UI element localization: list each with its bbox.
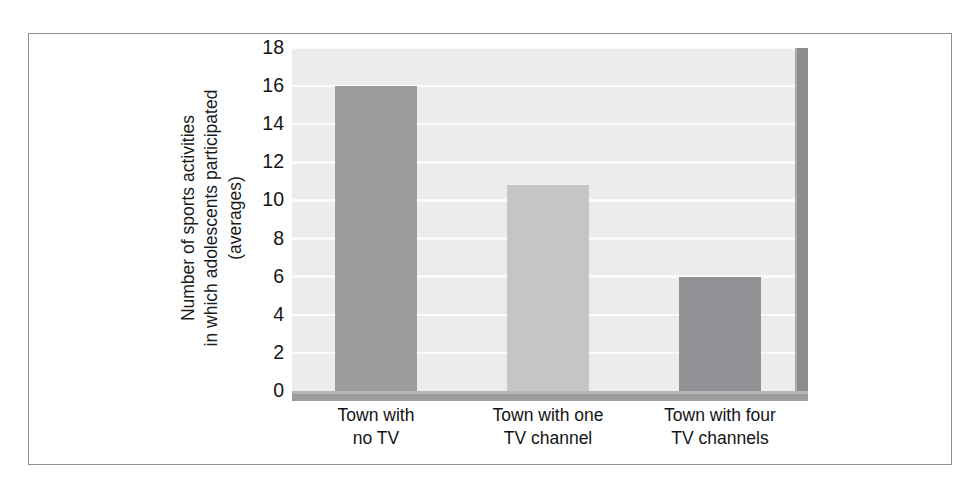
y-axis-tick-label: 2	[238, 343, 284, 363]
bar	[507, 185, 589, 391]
x-axis-category-label-line: TV channels	[634, 427, 806, 450]
y-axis-tick-label: 12	[238, 153, 284, 173]
plot-right-wall	[797, 48, 808, 391]
x-axis-category-label-line: Town with four	[634, 404, 806, 427]
x-axis-category-label-line: TV channel	[462, 427, 634, 450]
y-axis-tick-labels: 024681012141618	[238, 48, 284, 391]
plot-area	[292, 48, 808, 391]
x-axis-category-label: Town with oneTV channel	[462, 404, 634, 450]
y-axis-tick-label: 8	[238, 229, 284, 249]
x-axis-category-labels: Town withno TVTown with oneTV channelTow…	[292, 404, 808, 462]
gridline	[292, 48, 808, 49]
y-axis-tick-label: 14	[238, 114, 284, 134]
x-axis-category-label-line: Town with	[290, 404, 462, 427]
figure: Number of sports activities in which ado…	[0, 0, 978, 498]
x-axis-category-label-line: Town with one	[462, 404, 634, 427]
y-axis-tick-label: 16	[238, 76, 284, 96]
y-axis-tick-label: 18	[238, 38, 284, 58]
y-axis-tick-label: 6	[238, 267, 284, 287]
y-axis-tick-label: 0	[238, 381, 284, 401]
x-axis-category-label-line: no TV	[290, 427, 462, 450]
bar	[335, 86, 417, 391]
y-axis-tick-label: 4	[238, 305, 284, 325]
x-axis-category-label: Town withno TV	[290, 404, 462, 450]
y-axis-tick-label: 10	[238, 191, 284, 211]
bar	[679, 277, 761, 391]
x-axis-category-label: Town with fourTV channels	[634, 404, 806, 450]
x-axis-baseline-highlight	[292, 391, 808, 394]
